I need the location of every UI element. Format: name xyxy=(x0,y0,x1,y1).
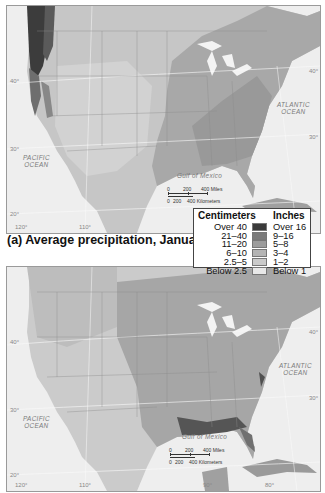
legend-swatch xyxy=(252,258,267,266)
gulf-of-mexico-label: Gulf of Mexico xyxy=(177,172,222,179)
lat-label: 30° xyxy=(10,146,19,152)
scale-bar: 0 200 400 Miles 0 200 400 Kilometers xyxy=(167,186,237,206)
lon-label: 90° xyxy=(203,482,212,488)
map-january-precipitation: PACIFICOCEAN ATLANTICOCEAN Gulf of Mexic… xyxy=(6,5,321,234)
gulf-of-mexico-label: Gulf of Mexico xyxy=(182,433,227,440)
caption-map-a: (a) Average precipitation, January xyxy=(7,233,208,247)
legend-swatch xyxy=(252,249,267,257)
lat-label: 30° xyxy=(309,395,318,401)
legend-row: Below 2.5 Below 1 xyxy=(194,267,310,276)
lat-label: 30° xyxy=(309,134,318,140)
scale-bar: 0 200 400 Miles 0 200 400 Kilometers xyxy=(169,447,239,467)
pacific-ocean-label: PACIFICOCEAN xyxy=(23,154,50,168)
atlantic-ocean-label: ATLANTICOCEAN xyxy=(279,362,312,376)
atlantic-ocean-label: ATLANTICOCEAN xyxy=(277,101,310,115)
pacific-ocean-label: PACIFICOCEAN xyxy=(23,415,50,429)
legend-swatch xyxy=(252,232,267,240)
legend-swatch xyxy=(252,267,267,275)
lon-label: 110° xyxy=(79,482,91,488)
legend-header-centimeters: Centimeters xyxy=(198,210,256,221)
lat-label: 40° xyxy=(10,339,19,345)
legend-row: 11–20 5–8 xyxy=(194,240,310,249)
precipitation-legend: Centimeters Inches Over 40 Over 16 21–40… xyxy=(193,208,311,268)
map-graphic xyxy=(7,6,320,233)
lat-label: 40° xyxy=(309,329,318,335)
lon-label: 110° xyxy=(79,224,91,230)
lon-label: 120° xyxy=(15,482,27,488)
lat-label: 20° xyxy=(10,472,19,478)
map-graphic xyxy=(7,267,320,491)
legend-swatch xyxy=(252,240,267,248)
map-july-precipitation: PACIFICOCEAN ATLANTICOCEAN Gulf of Mexic… xyxy=(6,266,321,492)
legend-row: 21–40 9–16 xyxy=(194,232,310,241)
lon-label: 80° xyxy=(265,482,274,488)
lat-label: 40° xyxy=(309,68,318,74)
legend-swatch xyxy=(252,223,267,231)
lat-label: 40° xyxy=(10,78,19,84)
lon-label: 120° xyxy=(15,224,27,230)
lat-label: 20° xyxy=(10,211,19,217)
lat-label: 30° xyxy=(10,407,19,413)
legend-header-inches: Inches xyxy=(273,210,305,221)
legend-row: 6–10 3–4 xyxy=(194,249,310,258)
